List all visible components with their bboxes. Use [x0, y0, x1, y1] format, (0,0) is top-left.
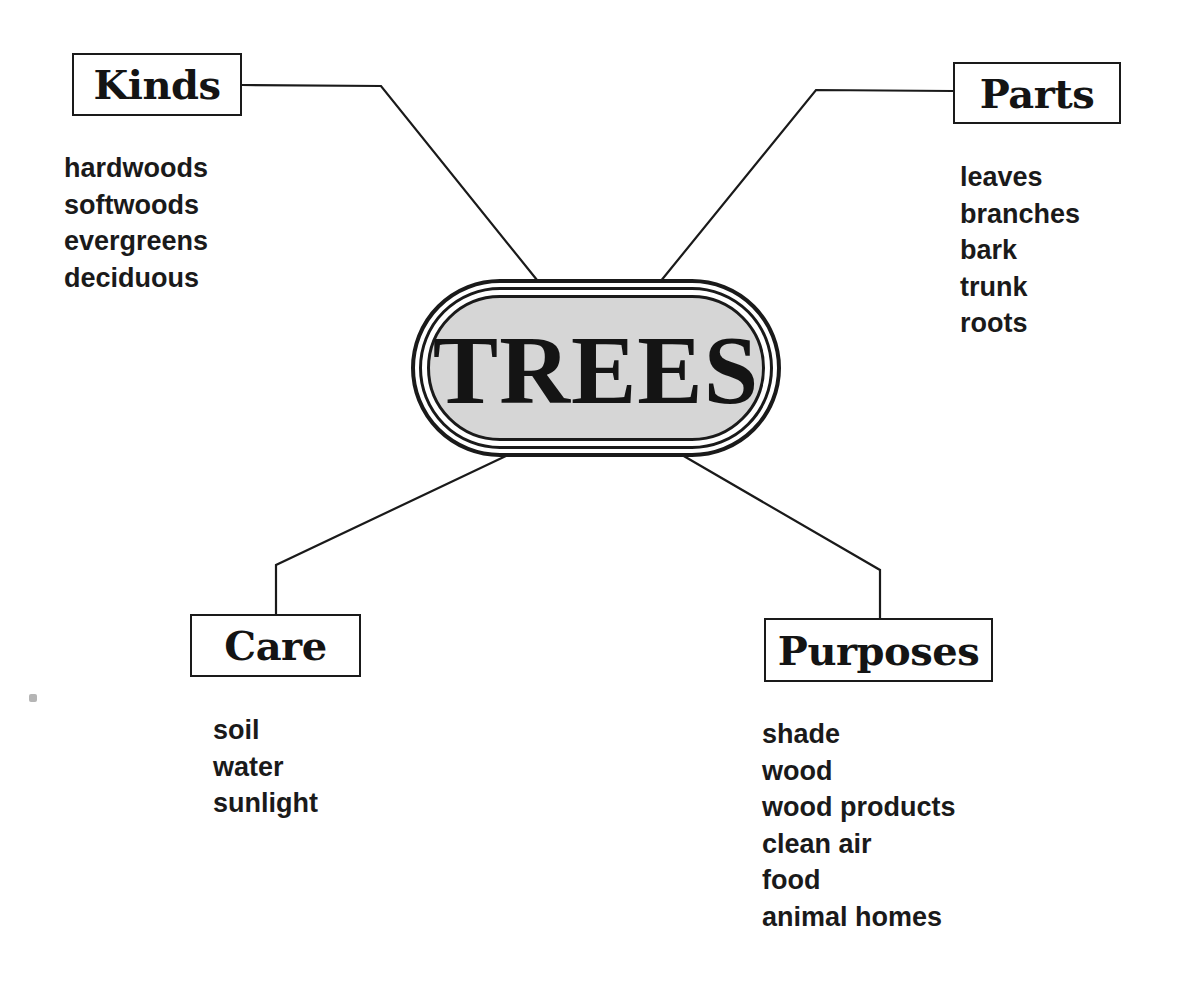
topic-box-parts: Parts — [953, 62, 1121, 124]
center-node-fill: TREES — [427, 295, 765, 441]
connector-purposes — [682, 455, 880, 619]
list-item: wood products — [762, 789, 955, 826]
item-list-care: soil water sunlight — [213, 712, 318, 822]
connector-parts — [660, 90, 953, 282]
topic-box-care: Care — [190, 614, 361, 677]
list-item: softwoods — [64, 187, 208, 224]
list-item: clean air — [762, 826, 955, 863]
list-item: sunlight — [213, 785, 318, 822]
list-item: branches — [960, 196, 1080, 233]
topic-box-kinds: Kinds — [72, 53, 242, 116]
topic-label-kinds: Kinds — [93, 61, 220, 108]
center-node-middle-border: TREES — [419, 287, 773, 449]
topic-label-care: Care — [224, 622, 326, 669]
item-list-parts: leaves branches bark trunk roots — [960, 159, 1080, 342]
concept-map: TREES Kinds hardwoods softwoods evergree… — [0, 0, 1184, 987]
topic-box-purposes: Purposes — [764, 618, 993, 682]
list-item: animal homes — [762, 899, 955, 936]
item-list-kinds: hardwoods softwoods evergreens deciduous — [64, 150, 208, 296]
list-item: soil — [213, 712, 318, 749]
list-item: water — [213, 749, 318, 786]
list-item: food — [762, 862, 955, 899]
list-item: evergreens — [64, 223, 208, 260]
connector-care — [276, 455, 508, 615]
list-item: deciduous — [64, 260, 208, 297]
list-item: bark — [960, 232, 1080, 269]
list-item: leaves — [960, 159, 1080, 196]
scan-speck — [29, 694, 37, 702]
topic-label-purposes: Purposes — [778, 627, 979, 674]
list-item: roots — [960, 305, 1080, 342]
connector-kinds — [242, 85, 537, 280]
item-list-purposes: shade wood wood products clean air food … — [762, 716, 955, 935]
list-item: shade — [762, 716, 955, 753]
connector-lines — [0, 0, 1184, 987]
list-item: hardwoods — [64, 150, 208, 187]
center-node: TREES — [411, 279, 781, 457]
list-item: trunk — [960, 269, 1080, 306]
center-title: TREES — [433, 317, 759, 419]
list-item: wood — [762, 753, 955, 790]
topic-label-parts: Parts — [980, 70, 1095, 117]
